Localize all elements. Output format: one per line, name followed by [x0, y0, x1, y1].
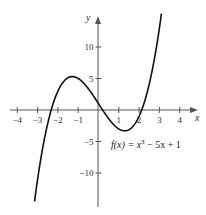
- y-tick-label: −10: [79, 168, 94, 178]
- y-tick-label: 5: [89, 74, 94, 84]
- x-tick-label: −4: [13, 115, 23, 125]
- x-tick-label: 1: [117, 115, 122, 125]
- x-tick-label: 4: [177, 115, 182, 125]
- x-tick-label: −1: [73, 115, 83, 125]
- y-tick-label: 10: [85, 42, 95, 52]
- function-label: f(x) = x3 − 5x + 1: [111, 138, 181, 151]
- function-plot: −4−3−2−11234 105−5−10 x y f(x) = x3 − 5x…: [0, 0, 206, 215]
- y-axis-label: y: [85, 12, 91, 23]
- x-tick-label: −3: [33, 115, 43, 125]
- y-axis-arrow-icon: [95, 16, 101, 24]
- x-axis-label: x: [194, 112, 200, 123]
- x-tick-label: 3: [157, 115, 162, 125]
- x-tick-label: −2: [53, 115, 63, 125]
- y-tick-label: −5: [84, 137, 94, 147]
